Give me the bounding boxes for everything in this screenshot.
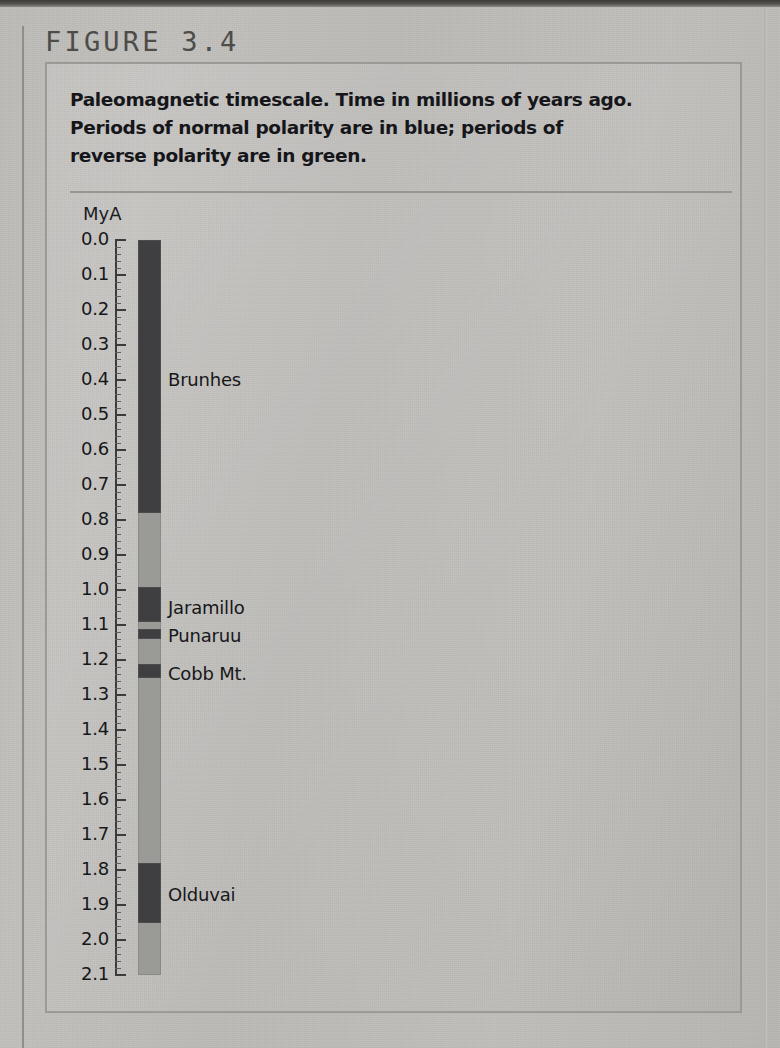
tick-major (115, 624, 126, 626)
chron-label-punaruu: Punaruu (168, 625, 241, 646)
tick-minor (115, 968, 121, 969)
tick-minor (115, 954, 121, 955)
tick-minor (115, 289, 121, 290)
tick-minor (115, 723, 121, 724)
polarity-band-brunhes (138, 240, 161, 513)
tick-minor (115, 793, 121, 794)
tick-minor (115, 688, 121, 689)
tick-major (115, 309, 126, 311)
tick-minor (115, 786, 121, 787)
tick-minor (115, 513, 121, 514)
page-rule-right (764, 7, 767, 1048)
chron-label-cobb-mt: Cobb Mt. (168, 663, 247, 684)
tick-minor (115, 408, 121, 409)
tick-minor (115, 282, 121, 283)
tick-minor (115, 373, 121, 374)
tick-label: 0.6 (47, 438, 109, 459)
tick-minor (115, 821, 121, 822)
tick-minor (115, 261, 121, 262)
tick-minor (115, 618, 121, 619)
tick-major (115, 729, 126, 731)
tick-minor (115, 849, 121, 850)
tick-major (115, 799, 126, 801)
tick-major (115, 834, 126, 836)
tick-major (115, 869, 126, 871)
tick-minor (115, 884, 121, 885)
tick-minor (115, 779, 121, 780)
tick-minor (115, 254, 121, 255)
chron-label-brunhes: Brunhes (168, 369, 241, 390)
tick-minor (115, 947, 121, 948)
tick-label: 1.5 (47, 753, 109, 774)
tick-label: 0.9 (47, 543, 109, 564)
tick-major (115, 659, 126, 661)
tick-minor (115, 478, 121, 479)
paleomagnetic-timescale-chart: MyA 0.00.10.20.30.40.50.60.70.80.91.01.1… (47, 64, 744, 1011)
polarity-band-jaramillo (138, 587, 161, 622)
tick-minor (115, 506, 121, 507)
tick-minor (115, 919, 121, 920)
tick-minor (115, 268, 121, 269)
tick-minor (115, 443, 121, 444)
tick-minor (115, 338, 121, 339)
tick-minor (115, 891, 121, 892)
tick-label: 0.4 (47, 368, 109, 389)
tick-minor (115, 583, 121, 584)
tick-minor (115, 758, 121, 759)
tick-minor (115, 457, 121, 458)
tick-label: 0.2 (47, 298, 109, 319)
tick-minor (115, 352, 121, 353)
tick-label: 1.9 (47, 893, 109, 914)
tick-minor (115, 541, 121, 542)
tick-minor (115, 863, 121, 864)
tick-major (115, 449, 126, 451)
tick-label: 0.8 (47, 508, 109, 529)
tick-minor (115, 429, 121, 430)
tick-label: 1.1 (47, 613, 109, 634)
tick-minor (115, 877, 121, 878)
tick-label: 0.3 (47, 333, 109, 354)
tick-minor (115, 366, 121, 367)
tick-minor (115, 394, 121, 395)
tick-minor (115, 534, 121, 535)
tick-major (115, 274, 126, 276)
polarity-band-cobb-mt (138, 664, 161, 678)
tick-label: 1.4 (47, 718, 109, 739)
tick-major (115, 764, 126, 766)
tick-minor (115, 611, 121, 612)
tick-minor (115, 961, 121, 962)
tick-major (115, 694, 126, 696)
tick-minor (115, 751, 121, 752)
tick-minor (115, 499, 121, 500)
tick-major (115, 974, 126, 976)
tick-major (115, 239, 126, 241)
time-axis-spine (115, 240, 117, 975)
tick-minor (115, 296, 121, 297)
tick-major (115, 554, 126, 556)
figure-frame: Paleomagnetic timescale. Time in million… (45, 62, 742, 1013)
tick-label: 1.8 (47, 858, 109, 879)
tick-minor (115, 548, 121, 549)
polarity-band-punaruu (138, 629, 161, 640)
tick-minor (115, 737, 121, 738)
tick-minor (115, 422, 121, 423)
tick-major (115, 589, 126, 591)
tick-minor (115, 632, 121, 633)
tick-minor (115, 527, 121, 528)
tick-minor (115, 646, 121, 647)
tick-minor (115, 247, 121, 248)
tick-minor (115, 772, 121, 773)
tick-minor (115, 562, 121, 563)
tick-minor (115, 807, 121, 808)
tick-minor (115, 331, 121, 332)
tick-minor (115, 324, 121, 325)
tick-minor (115, 576, 121, 577)
tick-label: 1.0 (47, 578, 109, 599)
tick-minor (115, 912, 121, 913)
tick-label: 2.1 (47, 963, 109, 984)
tick-minor (115, 702, 121, 703)
tick-minor (115, 597, 121, 598)
axis-unit-label: MyA (83, 203, 122, 224)
tick-minor (115, 639, 121, 640)
tick-minor (115, 653, 121, 654)
